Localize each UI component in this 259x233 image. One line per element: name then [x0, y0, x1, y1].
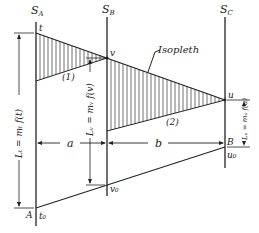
point-B-label: B [226, 137, 234, 147]
point-v-label: v [110, 48, 115, 58]
arrow-a-right [101, 141, 106, 145]
arrow-b-left [108, 141, 113, 145]
length-v-label: Lᵥ = mᵥ f(v) [85, 83, 95, 137]
arrow-b-right [219, 141, 224, 145]
point-v-dot [105, 56, 108, 59]
lv-arrow-bottom [88, 179, 92, 184]
length-u-label: Lᵤ = mᵤ f(u) [241, 98, 249, 141]
length-t-label: Lₜ = mₜ f(t) [14, 108, 24, 159]
baseline-line [36, 147, 225, 208]
point-u0-label: u₀ [227, 150, 237, 160]
triangle-2-label: (2) [166, 117, 179, 127]
point-v0-label: v₀ [110, 184, 119, 194]
dim-a-label: a [67, 137, 74, 150]
point-u-label: u [228, 90, 234, 100]
triangle-1-label: (1) [62, 72, 75, 82]
point-t-label: t [39, 23, 43, 33]
nomogram-diagram: SA SB SC t v u t₀ v₀ u₀ A B Isopleth (1)… [0, 0, 259, 233]
dim-b-label: b [155, 137, 162, 150]
isopleth-label: Isopleth [157, 44, 199, 55]
scale-c-label: SC [220, 3, 234, 17]
lv-arrow-top [88, 59, 92, 64]
scale-b-label: SB [102, 3, 115, 17]
point-t0-label: t₀ [39, 211, 47, 221]
lu-arrow-bottom [242, 141, 246, 146]
lt-arrow-top [17, 34, 21, 39]
scale-a-label: SA [31, 4, 44, 18]
point-A-label: A [25, 210, 33, 220]
lt-arrow-bottom [17, 202, 21, 207]
arrow-a-left [37, 141, 42, 145]
point-u-dot [224, 99, 227, 102]
